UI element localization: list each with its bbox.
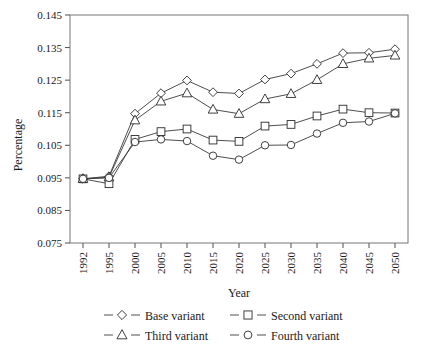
data-point-square xyxy=(157,128,165,136)
legend-label: Fourth variant xyxy=(271,329,340,343)
x-tick-label: 1995 xyxy=(103,252,115,275)
x-tick-label: 2025 xyxy=(259,252,271,275)
data-point-circle xyxy=(157,136,164,143)
data-point-circle xyxy=(105,174,112,181)
y-axis-title: Percentage xyxy=(11,119,25,172)
x-tick-label: 2040 xyxy=(337,252,349,275)
data-point-square xyxy=(209,136,217,144)
x-tick-label: 2035 xyxy=(311,252,323,275)
x-tick-label: 2010 xyxy=(181,252,193,275)
y-tick-label: 0.135 xyxy=(37,42,62,54)
data-point-circle xyxy=(339,119,346,126)
data-point-square xyxy=(235,138,243,146)
data-point-circle xyxy=(131,138,138,145)
legend-label: Base variant xyxy=(145,309,205,323)
data-point-circle xyxy=(287,141,294,148)
data-point-circle xyxy=(209,152,216,159)
x-tick-label: 2005 xyxy=(155,252,167,275)
legend-marker-circle-icon xyxy=(244,331,252,339)
data-point-square xyxy=(313,112,321,120)
data-point-square xyxy=(339,105,347,113)
x-tick-label: 2030 xyxy=(285,252,297,275)
data-point-circle xyxy=(313,130,320,137)
data-point-circle xyxy=(391,110,398,117)
x-tick-label: 2045 xyxy=(363,252,375,275)
y-tick-label: 0.115 xyxy=(38,107,63,119)
data-point-circle xyxy=(183,137,190,144)
y-tick-label: 0.075 xyxy=(37,237,62,249)
data-point-square xyxy=(365,109,373,117)
chart-container: 0.0750.0850.0950.1050.1150.1250.1350.145… xyxy=(0,0,422,353)
x-tick-label: 2020 xyxy=(233,252,245,275)
y-tick-label: 0.145 xyxy=(37,9,62,21)
y-tick-label: 0.105 xyxy=(37,139,62,151)
data-point-circle xyxy=(79,175,86,182)
data-point-circle xyxy=(235,156,242,163)
x-tick-label: 2015 xyxy=(207,252,219,275)
x-axis-title: Year xyxy=(228,286,250,300)
y-tick-label: 0.085 xyxy=(37,204,62,216)
x-tick-label: 2000 xyxy=(129,252,141,275)
data-point-square xyxy=(261,122,269,130)
x-tick-label: 1992 xyxy=(77,252,89,274)
x-tick-label: 2050 xyxy=(389,252,401,275)
data-point-square xyxy=(183,125,191,133)
legend-label: Second variant xyxy=(271,309,343,323)
line-chart: 0.0750.0850.0950.1050.1150.1250.1350.145… xyxy=(0,0,422,353)
data-point-circle xyxy=(365,118,372,125)
legend-marker-square-icon xyxy=(244,311,252,319)
y-tick-label: 0.095 xyxy=(37,172,62,184)
data-point-circle xyxy=(261,142,268,149)
y-tick-label: 0.125 xyxy=(37,74,62,86)
data-point-square xyxy=(287,121,295,129)
legend-label: Third variant xyxy=(145,329,209,343)
